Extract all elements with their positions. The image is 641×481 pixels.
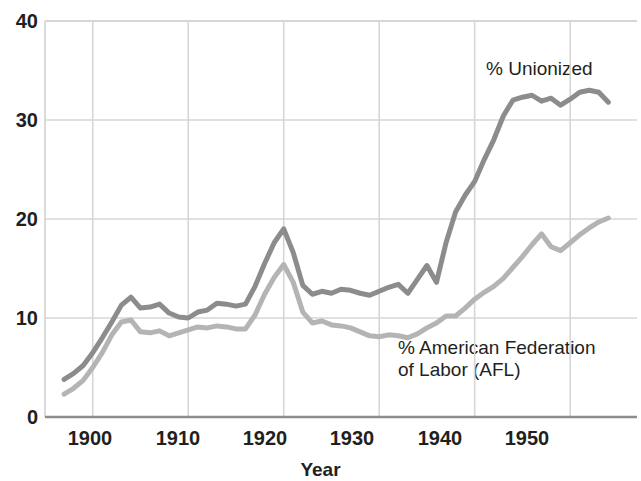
plot-area [0,0,641,481]
gridlines [45,21,637,417]
series-paths [64,90,608,394]
chart-container: 40 30 20 10 0 1900 1910 1920 1930 1940 1… [0,0,641,481]
